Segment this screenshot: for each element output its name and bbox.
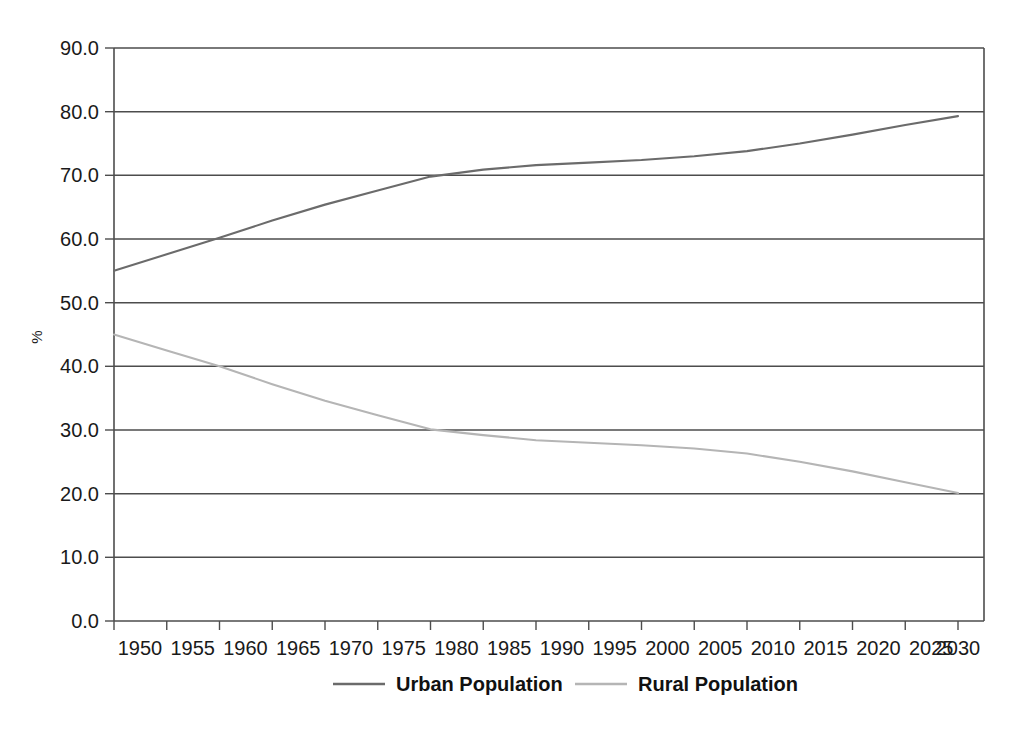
- chart-figure: 90.0 80.0 70.0 60.0 50.0 40.0 30.0 20.0 …: [0, 0, 1010, 731]
- x-tick-label-1960: 1960: [223, 637, 268, 659]
- x-tick-label-1950: 1950: [118, 637, 163, 659]
- x-tick-label-1955: 1955: [171, 637, 216, 659]
- legend-label-urban: Urban Population: [396, 673, 563, 695]
- x-tick-label-2005: 2005: [698, 637, 743, 659]
- y-tick-label-60: 60.0: [60, 228, 99, 250]
- x-tick-label-2015: 2015: [804, 637, 849, 659]
- x-tick-label-1980: 1980: [434, 637, 479, 659]
- x-tick-label-1975: 1975: [382, 637, 427, 659]
- x-tick-label-1990: 1990: [540, 637, 585, 659]
- x-tick-label-1985: 1985: [487, 637, 532, 659]
- x-tick-label-1995: 1995: [593, 637, 638, 659]
- y-tick-label-20: 20.0: [60, 483, 99, 505]
- x-tick-label-2020: 2020: [856, 637, 901, 659]
- x-tick-label-2000: 2000: [645, 637, 690, 659]
- y-axis-title: %: [28, 330, 45, 343]
- x-tick-label-2030: 2030: [936, 637, 981, 659]
- y-tick-label-50: 50.0: [60, 292, 99, 314]
- line-chart-svg: 90.0 80.0 70.0 60.0 50.0 40.0 30.0 20.0 …: [0, 0, 1010, 731]
- y-tick-label-90: 90.0: [60, 37, 99, 59]
- y-tick-label-70: 70.0: [60, 164, 99, 186]
- y-tick-label-0: 0.0: [71, 610, 99, 632]
- y-tick-label-40: 40.0: [60, 355, 99, 377]
- y-tick-label-80: 80.0: [60, 101, 99, 123]
- x-tick-label-2010: 2010: [751, 637, 796, 659]
- x-tick-label-1970: 1970: [329, 637, 374, 659]
- legend-label-rural: Rural Population: [638, 673, 798, 695]
- y-tick-label-30: 30.0: [60, 419, 99, 441]
- y-tick-label-10: 10.0: [60, 546, 99, 568]
- x-tick-label-1965: 1965: [276, 637, 321, 659]
